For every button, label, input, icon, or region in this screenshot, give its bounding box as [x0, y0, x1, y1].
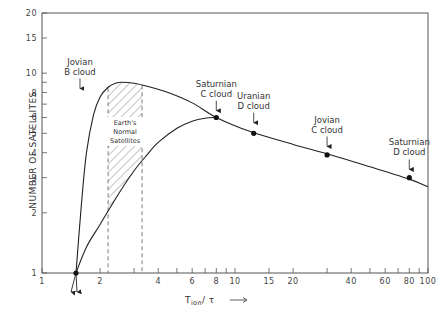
arrow-down-icon	[71, 273, 76, 292]
annotation-label: B cloud	[64, 67, 96, 77]
region-label: Normal	[113, 128, 137, 136]
x-tick-label: 8	[213, 277, 219, 286]
annotation-label: Saturnian	[196, 79, 237, 89]
x-tick-label: 20	[288, 277, 299, 286]
data-point	[73, 270, 78, 275]
annotation-label: Saturnian	[389, 137, 430, 147]
annotation-label: Jovian	[313, 115, 340, 125]
y-tick-label: 20	[26, 9, 37, 18]
earths-normal-satellites-region: Earth'sNormalSatellites	[100, 82, 147, 273]
arrow-down-icon	[76, 273, 77, 292]
region-label: Earth's	[114, 119, 137, 127]
data-point	[324, 152, 329, 157]
chart: Earth'sNormalSatellites 1246810152040608…	[0, 0, 448, 313]
curve-lower-curve	[76, 117, 216, 273]
x-tick-label: 4	[155, 277, 161, 286]
x-tick-label: 6	[189, 277, 195, 286]
x-tick-label: 60	[380, 277, 391, 286]
annotation-label: D cloud	[393, 147, 425, 157]
annotation-label: Jovian	[66, 57, 93, 67]
x-tick-label: 10	[229, 277, 240, 286]
x-tick-label: 80	[404, 277, 415, 286]
x-tick-label: 100	[420, 277, 437, 286]
x-tick-label: 2	[97, 277, 103, 286]
data-point	[251, 131, 256, 136]
data-point	[407, 175, 412, 180]
x-tick-label: 1	[39, 277, 45, 286]
y-tick-label: 15	[26, 34, 37, 43]
annotation-label: D cloud	[238, 101, 270, 111]
data-point	[214, 115, 219, 120]
x-axis-arrow-icon	[230, 298, 247, 303]
y-axis-title: NUMBER OF SATELLITES	[28, 91, 38, 208]
x-tick-label: 15	[263, 277, 274, 286]
y-tick-label: 2	[31, 209, 37, 218]
x-axis-title: Tion/ τ	[184, 295, 215, 307]
annotation-label: Uranian	[237, 91, 270, 101]
annotation-label: C cloud	[200, 89, 232, 99]
annotation-label: C cloud	[311, 125, 343, 135]
y-tick-label: 1	[31, 269, 37, 278]
y-tick-label: 10	[26, 69, 37, 78]
region-label: Satellites	[110, 137, 141, 145]
x-tick-label: 40	[346, 277, 357, 286]
